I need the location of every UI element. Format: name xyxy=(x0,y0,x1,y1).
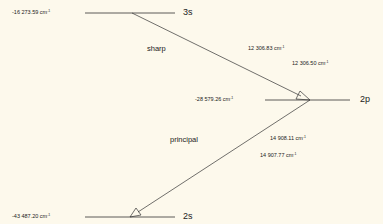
wavenumber-principal-1: 14 908.11 cm-1 xyxy=(270,136,306,142)
wavenumber-sharp-1: 12 306.83 cm-1 xyxy=(248,46,284,52)
energy-value: -28 579.26 xyxy=(195,96,221,102)
arrowhead-principal-icon xyxy=(130,208,141,217)
unit-exp: -1 xyxy=(230,96,233,100)
energy-label-3s: -16 273.59 cm-1 xyxy=(12,10,50,16)
wavenumber-value: 12 306.83 xyxy=(248,45,272,51)
wavenumber-principal-2: 14 907.77 cm-1 xyxy=(260,153,296,159)
wavenumber-value: 14 907.77 xyxy=(260,152,284,158)
unit-exp: -1 xyxy=(47,213,50,217)
term-label-2p: 2p xyxy=(360,95,370,104)
wavenumber-value: 14 908.11 xyxy=(270,135,294,141)
energy-value: -43 487.20 xyxy=(12,213,38,219)
unit-exp: -1 xyxy=(293,152,296,156)
energy-label-2s: -43 487.20 cm-1 xyxy=(12,214,50,220)
unit-exp: -1 xyxy=(47,9,50,13)
wavenumber-sharp-2: 12 306.50 cm-1 xyxy=(292,61,328,67)
energy-value: -16 273.59 xyxy=(12,9,38,15)
series-label-sharp: sharp xyxy=(147,45,166,53)
wavenumber-value: 12 306.50 xyxy=(292,60,316,66)
series-label-principal: principal xyxy=(170,136,198,144)
term-label-3s: 3s xyxy=(183,8,193,17)
unit: cm xyxy=(296,135,303,141)
term-label-2s: 2s xyxy=(183,212,193,221)
unit-exp: -1 xyxy=(303,135,306,139)
unit-exp: -1 xyxy=(281,45,284,49)
arrowhead-sharp-icon xyxy=(296,91,310,100)
diagram-canvas xyxy=(0,0,383,224)
transition-line-sharp xyxy=(132,13,301,96)
unit-exp: -1 xyxy=(325,60,328,64)
energy-label-2p: -28 579.26 cm-1 xyxy=(195,97,233,103)
